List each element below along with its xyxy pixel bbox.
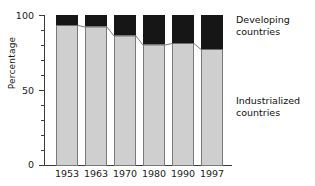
y-tick-60 <box>41 75 44 76</box>
y-tick-label-100: 100 <box>8 10 34 21</box>
y-tick-90 <box>41 30 44 31</box>
y-tick-50 <box>39 90 44 91</box>
bar-1970-industrialized <box>114 35 136 166</box>
bar-1963-industrialized <box>85 26 107 166</box>
y-tick-100 <box>39 15 44 16</box>
y-tick-10 <box>41 150 44 151</box>
legend-industrialized-line2: countries <box>236 107 300 119</box>
legend-industrialized-countries: Industrialized countries <box>236 95 300 118</box>
y-tick-label-50: 50 <box>8 85 34 96</box>
y-tick-80 <box>41 45 44 46</box>
legend-developing-line1: Developing <box>236 14 290 26</box>
bar-1990-developing <box>172 15 194 44</box>
legend-developing-line2: countries <box>236 26 290 38</box>
bar-1970-developing <box>114 15 136 36</box>
y-tick-70 <box>41 60 44 61</box>
y-tick-20 <box>41 135 44 136</box>
bar-1990-industrialized <box>172 43 194 166</box>
y-tick-40 <box>41 105 44 106</box>
x-tick-label-1997: 1997 <box>192 168 232 179</box>
y-tick-30 <box>41 120 44 121</box>
chart-figure: Percentage 100 50 0 1953 1963 1970 1980 … <box>0 0 315 186</box>
y-axis-spine <box>44 15 45 166</box>
legend-developing-countries: Developing countries <box>236 14 290 37</box>
bar-1980-industrialized <box>143 44 165 166</box>
bar-1953-industrialized <box>56 25 78 166</box>
y-tick-label-0: 0 <box>8 159 34 170</box>
bar-1997-developing <box>201 15 223 50</box>
bar-1997-industrialized <box>201 49 223 166</box>
bar-1980-developing <box>143 15 165 45</box>
legend-industrialized-line1: Industrialized <box>236 95 300 107</box>
